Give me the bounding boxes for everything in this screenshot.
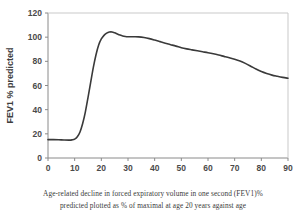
- x-tick-label: 40: [150, 163, 160, 172]
- y-tick-label: 120: [28, 8, 42, 18]
- y-tick-label: 20: [33, 129, 43, 139]
- x-tick-label: 90: [283, 163, 293, 172]
- y-tick-label: 60: [33, 81, 43, 91]
- figure-caption: Age-related decline in forced expiratory…: [0, 188, 306, 211]
- y-tick-label: 80: [33, 56, 43, 66]
- y-tick-label: 100: [28, 32, 42, 42]
- y-tick-label: 40: [33, 105, 43, 115]
- caption-line-1: Age-related decline in forced expiratory…: [0, 188, 306, 200]
- x-tick-label: 50: [177, 163, 187, 172]
- x-tick-label: 10: [70, 163, 80, 172]
- data-line-fev1: [48, 32, 288, 140]
- x-tick-label: 70: [230, 163, 240, 172]
- x-tick-label: 60: [203, 163, 213, 172]
- chart-area: 0204060801001200102030405060708090Age in…: [0, 0, 306, 172]
- figure-container: 0204060801001200102030405060708090Age in…: [0, 0, 306, 220]
- x-tick-label: 0: [46, 163, 51, 172]
- y-axis-title: FEV1 % predicted: [5, 47, 15, 123]
- x-tick-label: 20: [97, 163, 107, 172]
- fev1-line-chart: 0204060801001200102030405060708090Age in…: [0, 0, 306, 172]
- x-tick-label: 30: [123, 163, 133, 172]
- y-tick-label: 0: [37, 153, 42, 163]
- caption-line-2: predicted plotted as % of maximal at age…: [0, 200, 306, 212]
- x-tick-label: 80: [257, 163, 267, 172]
